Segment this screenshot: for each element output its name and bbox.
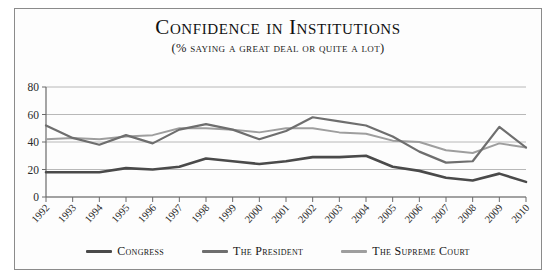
x-tick-label: 1998 <box>189 202 211 225</box>
legend-label-congress: Congress <box>117 244 164 259</box>
x-tick-label: 1995 <box>109 202 131 225</box>
series-line-the-president <box>46 117 526 162</box>
x-tick-label: 1993 <box>56 202 78 225</box>
legend-label-the-president: The President <box>233 244 303 259</box>
line-chart-svg: 8060402001992199319941995199619971998199… <box>15 9 543 271</box>
y-tick-label: 20 <box>28 164 40 176</box>
legend-swatch-the-supreme-court <box>341 250 367 253</box>
x-tick-label: 1992 <box>29 202 51 225</box>
y-tick-label: 40 <box>28 136 40 148</box>
x-tick-label: 2005 <box>376 202 398 225</box>
chart-figure: Confidence in Institutions (% saying a g… <box>14 8 542 270</box>
chart-legend: Congress The President The Supreme Court <box>15 244 541 259</box>
legend-item-the-supreme-court[interactable]: The Supreme Court <box>341 244 470 259</box>
x-tick-label: 2006 <box>403 202 425 225</box>
legend-item-congress[interactable]: Congress <box>86 244 164 259</box>
x-tick-label: 2004 <box>349 201 372 225</box>
x-tick-label: 2003 <box>323 202 345 225</box>
x-tick-label: 1997 <box>163 202 185 225</box>
x-tick-label: 1994 <box>83 201 106 225</box>
series-line-congress <box>46 156 526 182</box>
x-tick-label: 1996 <box>136 202 158 225</box>
x-tick-label: 2002 <box>296 202 318 225</box>
y-tick-label: 0 <box>33 191 39 203</box>
x-tick-label: 2009 <box>483 202 505 225</box>
x-tick-label: 1999 <box>216 202 238 225</box>
x-tick-label: 2010 <box>509 202 531 225</box>
y-tick-label: 80 <box>28 81 40 93</box>
legend-label-the-supreme-court: The Supreme Court <box>372 244 470 259</box>
y-tick-label: 60 <box>28 109 40 121</box>
x-tick-label: 2000 <box>243 202 265 225</box>
legend-swatch-congress <box>86 250 112 253</box>
x-tick-label: 2007 <box>429 202 451 225</box>
plot-area: 8060402001992199319941995199619971998199… <box>15 9 543 271</box>
x-tick-label: 2008 <box>456 202 478 225</box>
x-tick-label: 2001 <box>269 202 291 225</box>
legend-item-the-president[interactable]: The President <box>202 244 303 259</box>
legend-swatch-the-president <box>202 250 228 253</box>
